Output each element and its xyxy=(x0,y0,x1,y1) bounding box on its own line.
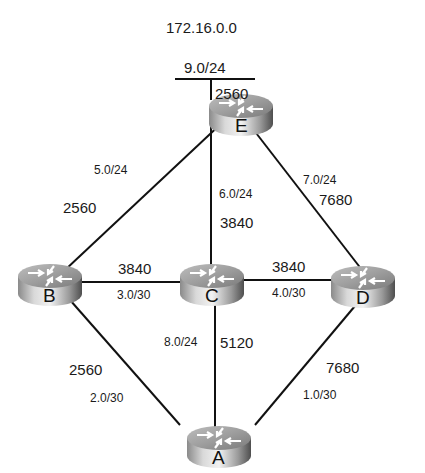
link-e-c-subnet: 6.0/24 xyxy=(219,188,252,200)
stub-network-label: 9.0/24 xyxy=(184,60,226,75)
router-e-label: E xyxy=(235,115,248,136)
link-d-a-cost: 7680 xyxy=(326,360,359,375)
link-e-d-cost: 7680 xyxy=(319,192,352,207)
link-c-a-subnet: 8.0/24 xyxy=(164,336,197,348)
link-b-c-subnet: 3.0/30 xyxy=(117,289,150,301)
link-e-b-cost: 2560 xyxy=(63,200,96,215)
link-b-a-cost: 2560 xyxy=(69,362,102,377)
link-e-b-subnet: 5.0/24 xyxy=(94,164,127,176)
link-c-d-subnet: 4.0/30 xyxy=(272,287,305,299)
router-b: B xyxy=(18,264,82,306)
router-b-label: B xyxy=(43,285,56,306)
router-c-label: C xyxy=(205,285,219,306)
network-title: 172.16.0.0 xyxy=(166,20,237,35)
link-e-c-cost: 3840 xyxy=(220,215,253,230)
link-d-a-subnet: 1.0/30 xyxy=(303,389,336,401)
link-c-a-cost: 5120 xyxy=(220,335,253,350)
link-b-a-subnet: 2.0/30 xyxy=(90,392,123,404)
stub-network-cost: 2560 xyxy=(215,86,248,101)
router-a-label: A xyxy=(212,447,225,468)
router-d-label: D xyxy=(356,287,370,308)
router-d: D xyxy=(331,266,395,308)
link-e-b xyxy=(65,120,225,270)
link-c-d-cost: 3840 xyxy=(272,259,305,274)
link-e-d-subnet: 7.0/24 xyxy=(303,174,336,186)
router-c: C xyxy=(180,264,244,306)
link-b-c-cost: 3840 xyxy=(118,261,151,276)
router-a: A xyxy=(187,426,251,468)
